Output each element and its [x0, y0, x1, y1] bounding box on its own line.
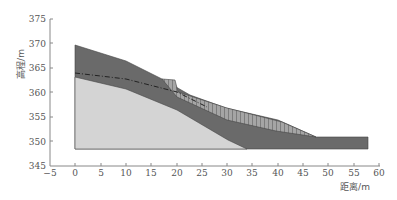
x-tick-25: 25	[196, 168, 208, 178]
y-tick-370: 370	[29, 39, 46, 49]
slope-cross-section-figure: 375 370 365 360 355 350 345 −5 0 5 10 15…	[0, 0, 397, 200]
x-axis-label: 距离/m	[340, 181, 370, 192]
x-tick-30: 30	[221, 168, 233, 178]
x-tick-60: 60	[373, 168, 385, 178]
x-tick--5: −5	[43, 168, 57, 178]
x-tick-45: 45	[297, 168, 309, 178]
x-tick-55: 55	[348, 168, 360, 178]
y-tick-350: 350	[29, 137, 46, 147]
x-tick-15: 15	[145, 168, 157, 178]
x-tick-5: 5	[98, 168, 104, 178]
x-tick-40: 40	[272, 168, 284, 178]
y-tick-360: 360	[29, 88, 46, 98]
y-tick-365: 365	[29, 63, 46, 73]
chart-svg: 375 370 365 360 355 350 345 −5 0 5 10 15…	[0, 0, 397, 200]
x-tick-50: 50	[322, 168, 334, 178]
x-tick-35: 35	[246, 168, 258, 178]
x-tick-10: 10	[120, 168, 132, 178]
y-tick-355: 355	[29, 112, 46, 122]
y-axis-label: 高程/m	[15, 49, 26, 79]
x-tick-0: 0	[72, 168, 78, 178]
x-tick-20: 20	[171, 168, 183, 178]
y-tick-375: 375	[29, 14, 46, 24]
